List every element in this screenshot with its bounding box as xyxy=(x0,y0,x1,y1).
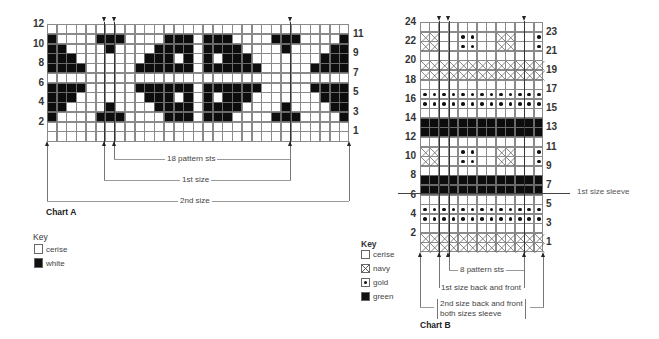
chart-cell xyxy=(439,223,449,233)
gold-dot-cell xyxy=(420,99,430,109)
chart-cell xyxy=(261,34,271,44)
chart-cell xyxy=(183,44,193,54)
chart-cell xyxy=(448,195,458,205)
chart-cell xyxy=(144,83,154,93)
black-square-icon xyxy=(34,258,43,268)
chart-cell xyxy=(86,53,96,63)
chart-cell xyxy=(86,131,96,141)
chart-cell xyxy=(467,22,477,32)
navy-cross-cell xyxy=(420,156,430,166)
chart-cell xyxy=(505,127,515,137)
chart-cell xyxy=(115,83,125,93)
bracket-line xyxy=(530,307,544,308)
chart-cell xyxy=(86,24,96,34)
row-label: 23 xyxy=(546,26,562,37)
chart-cell xyxy=(193,131,203,141)
gold-dot-cell xyxy=(486,89,496,99)
navy-cross-cell xyxy=(505,60,515,70)
chart-cell xyxy=(458,22,468,32)
chart-cell xyxy=(261,24,271,34)
chart-cell xyxy=(203,112,213,122)
chart-cell xyxy=(448,156,458,166)
chart-cell xyxy=(486,41,496,51)
navy-cross-cell xyxy=(448,242,458,252)
chart-cell xyxy=(496,175,506,185)
chart-cell xyxy=(242,122,252,132)
chart-cell xyxy=(86,83,96,93)
chart-cell xyxy=(203,44,213,54)
row-label: 10 xyxy=(28,38,44,49)
navy-cross-cell xyxy=(486,60,496,70)
chart-cell xyxy=(183,92,193,102)
chart-cell xyxy=(467,108,477,118)
chart-cell xyxy=(135,34,145,44)
navy-cross-cell xyxy=(534,60,544,70)
chart-cell xyxy=(486,166,496,176)
navy-cross-cell xyxy=(534,242,544,252)
chart-cell xyxy=(86,44,96,54)
chart-cell xyxy=(261,63,271,73)
chart-cell xyxy=(164,112,174,122)
chart-cell xyxy=(439,41,449,51)
chart-cell xyxy=(174,34,184,44)
chart-cell xyxy=(183,24,193,34)
chart-cell xyxy=(57,53,67,63)
chart-cell xyxy=(420,195,430,205)
chart-cell xyxy=(458,166,468,176)
chart-cell xyxy=(429,223,439,233)
key-label: cerise xyxy=(46,245,67,254)
chart-cell xyxy=(261,122,271,132)
chart-cell xyxy=(271,44,281,54)
gold-dot-cell xyxy=(467,147,477,157)
chart-cell xyxy=(477,80,487,90)
chart-cell xyxy=(135,92,145,102)
key-item-white: white xyxy=(34,258,65,268)
marker-line xyxy=(104,22,105,144)
navy-cross-cell xyxy=(534,233,544,243)
gold-dot-cell xyxy=(534,89,544,99)
gold-dot-cell xyxy=(534,41,544,51)
chart-cell xyxy=(252,131,262,141)
chart-cell xyxy=(203,53,213,63)
navy-cross-cell xyxy=(486,233,496,243)
chart-cell xyxy=(524,175,534,185)
key-item-navy: navy xyxy=(361,264,390,273)
navy-cross-cell xyxy=(477,70,487,80)
row-label: 6 xyxy=(400,189,416,200)
chart-cell xyxy=(76,34,86,44)
chart-cell xyxy=(174,92,184,102)
chart-cell xyxy=(496,137,506,147)
chart-cell xyxy=(164,44,174,54)
chart-cell xyxy=(222,34,232,44)
chart-cell xyxy=(242,44,252,54)
chart-cell xyxy=(300,102,310,112)
gold-dot-cell xyxy=(448,99,458,109)
navy-cross-cell xyxy=(467,70,477,80)
navy-cross-cell xyxy=(439,70,449,80)
blank-square-icon xyxy=(361,250,370,259)
chart-cell xyxy=(144,34,154,44)
chart-cell xyxy=(339,44,349,54)
chart-cell xyxy=(115,24,125,34)
chart-cell xyxy=(458,175,468,185)
row-label: 9 xyxy=(353,47,369,58)
chart-cell xyxy=(524,80,534,90)
chart-cell xyxy=(339,34,349,44)
chart-cell xyxy=(310,131,320,141)
chart-cell xyxy=(193,112,203,122)
chart-cell xyxy=(47,122,57,132)
chart-cell xyxy=(47,131,57,141)
chart-cell xyxy=(222,83,232,93)
navy-cross-cell xyxy=(505,32,515,42)
navy-cross-cell xyxy=(496,70,506,80)
navy-cross-cell xyxy=(420,70,430,80)
cross-square-icon xyxy=(361,264,370,273)
chart-cell xyxy=(486,223,496,233)
annotation-1st-size-sleeve: 1st size sleeve xyxy=(575,187,631,196)
chart-cell xyxy=(477,51,487,61)
navy-cross-cell xyxy=(429,32,439,42)
row-label: 19 xyxy=(546,64,562,75)
gold-dot-cell xyxy=(429,214,439,224)
key-title: Key xyxy=(361,239,377,249)
bracket-line xyxy=(449,257,450,270)
